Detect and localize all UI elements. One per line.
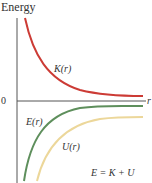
- y-axis-label: Energy: [1, 0, 35, 15]
- energy-equation: E = K + U: [91, 167, 135, 178]
- x-axis-label: r: [147, 95, 151, 106]
- k-curve-label: K(r): [54, 63, 71, 74]
- energy-diagram: [0, 0, 152, 183]
- e-curve-label: E(r): [26, 116, 43, 127]
- u-curve-label: U(r): [62, 141, 80, 152]
- zero-label: 0: [1, 95, 6, 106]
- k-curve: [25, 18, 143, 96]
